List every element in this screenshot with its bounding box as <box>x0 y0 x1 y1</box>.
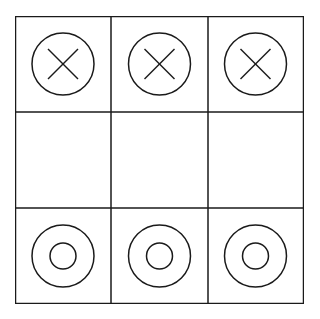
board-svg <box>15 16 304 304</box>
cell-2-2[interactable] <box>208 208 304 304</box>
cell-0-0[interactable] <box>15 16 111 112</box>
cell-2-0[interactable] <box>15 208 111 304</box>
cell-2-1[interactable] <box>111 208 207 304</box>
cell-1-0[interactable] <box>15 112 111 208</box>
game-board <box>15 16 304 304</box>
cell-1-2[interactable] <box>208 112 304 208</box>
cell-0-2[interactable] <box>208 16 304 112</box>
cell-1-1[interactable] <box>111 112 207 208</box>
cell-0-1[interactable] <box>111 16 207 112</box>
